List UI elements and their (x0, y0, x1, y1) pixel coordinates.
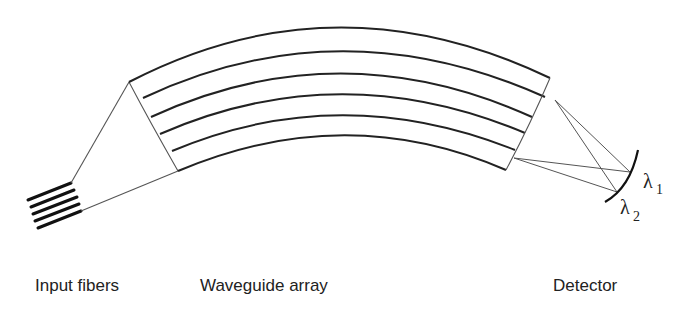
svg-text:2: 2 (633, 209, 640, 224)
input-fiber (38, 211, 81, 228)
wavelength-1-label: λ 1 (643, 170, 663, 197)
input-fibers-bundle (28, 183, 81, 228)
input-fibers-label: Input fibers (35, 276, 119, 296)
waveguide (172, 115, 515, 151)
detector-label: Detector (553, 276, 617, 296)
waveguide (160, 94, 525, 134)
waveguide (178, 135, 506, 171)
output-edge (506, 78, 550, 170)
input-star-coupler (71, 82, 178, 211)
waveguide-array (129, 27, 550, 171)
awg-diagram: λ 1 λ 2 (0, 0, 677, 314)
focusing-rays (514, 100, 630, 192)
waveguide (143, 51, 545, 98)
svg-text:λ: λ (620, 196, 630, 218)
svg-text:1: 1 (656, 182, 663, 197)
detector-surface (605, 150, 638, 202)
input-fiber (31, 190, 74, 207)
waveguide-array-label: Waveguide array (200, 276, 328, 296)
input-fiber (28, 183, 71, 200)
svg-text:λ: λ (643, 170, 653, 192)
input-fiber (35, 204, 79, 221)
input-fiber (33, 197, 77, 214)
wavelength-2-label: λ 2 (620, 196, 640, 224)
